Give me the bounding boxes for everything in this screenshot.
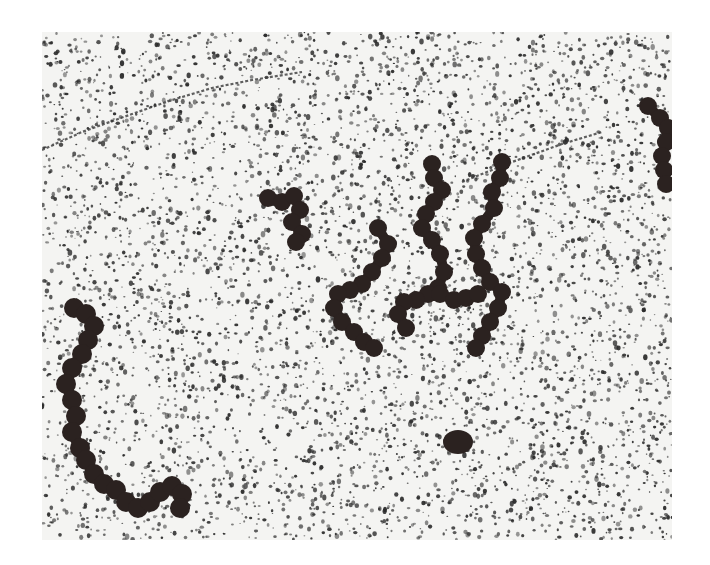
nucleosome-bead [431,245,449,263]
nucleosome-bead [365,339,383,357]
nucleosome-bead [369,219,387,237]
nucleosome-bead [467,339,485,357]
nucleosome-bead [170,498,190,518]
micrograph-image [42,32,672,540]
nucleosome-bead [397,319,415,337]
nucleosome-bead [485,199,503,217]
chain-center-bottom [431,285,487,309]
chain-upper-left-short [259,187,311,251]
nucleosome-bead [469,285,487,303]
isolated-particle [443,430,473,454]
nucleosome-bead [483,183,501,201]
particle-layer [443,430,473,454]
nucleosome-bead [435,263,453,281]
nucleosome-bead [493,283,511,301]
nucleosome-bead [287,233,305,251]
micrograph-canvas [42,32,672,540]
chain-lower-left-long [56,298,192,518]
nucleosome-bead [657,175,672,193]
nucleosome-bead [465,229,483,247]
nucleosome-bead [493,153,511,171]
